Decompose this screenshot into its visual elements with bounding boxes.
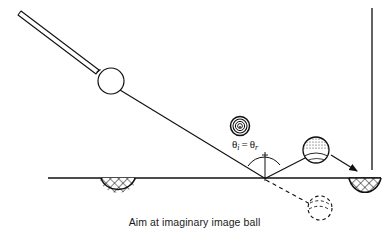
dashed-image-line	[266, 180, 312, 205]
side-pocket	[98, 176, 140, 196]
angle-arc-reflected	[265, 157, 280, 165]
object-ball	[303, 137, 329, 163]
ghost-target-ball	[231, 117, 250, 136]
reflected-path-line	[266, 157, 307, 178]
theta-reflected-subscript: r	[255, 143, 258, 152]
figure-caption: Aim at imaginary image ball	[0, 216, 389, 228]
angle-arc-incident	[248, 157, 265, 166]
cue-ball	[98, 68, 124, 94]
equals-symbol: =	[240, 138, 250, 150]
cue-stick	[18, 11, 101, 74]
angle-equality-label: θi=θr	[232, 138, 258, 152]
billiards-aiming-diagram: θi=θr Aim at imaginary image ball	[0, 0, 389, 238]
corner-pocket	[345, 175, 387, 201]
diagram-canvas	[0, 0, 389, 238]
pocket-arrow	[331, 155, 357, 171]
